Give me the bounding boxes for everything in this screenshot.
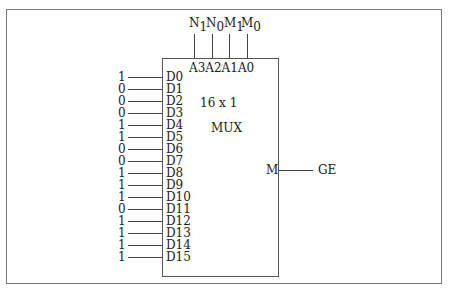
signal-sub: 0 bbox=[217, 20, 225, 34]
select-line-a3 bbox=[194, 34, 195, 58]
output-signal: GE bbox=[318, 164, 336, 176]
input-line-d14 bbox=[128, 245, 162, 246]
output-pin: M bbox=[266, 164, 278, 176]
signal-main: N bbox=[206, 16, 217, 30]
input-line-d3 bbox=[128, 113, 162, 114]
pin-d15: D15 bbox=[166, 251, 191, 263]
mux-size-label: 16 x 1 bbox=[200, 97, 237, 109]
input-line-d2 bbox=[128, 101, 162, 102]
input-line-d0 bbox=[128, 77, 162, 78]
signal-sub: 0 bbox=[253, 20, 261, 34]
select-line-a0 bbox=[247, 34, 248, 58]
select-line-a1 bbox=[229, 34, 230, 58]
input-line-d12 bbox=[128, 221, 162, 222]
input-line-d13 bbox=[128, 233, 162, 234]
input-line-d11 bbox=[128, 209, 162, 210]
select-signal-a0: M0 bbox=[241, 17, 261, 29]
input-line-d7 bbox=[128, 161, 162, 162]
select-signal-a2: N0 bbox=[206, 17, 224, 29]
select-signal-a3: N1 bbox=[189, 17, 207, 29]
signal-main: N bbox=[189, 16, 200, 30]
select-header: A3A2A1A0 bbox=[189, 62, 254, 74]
signal-main: M bbox=[241, 16, 253, 30]
mux-label: MUX bbox=[211, 122, 242, 134]
select-line-a2 bbox=[212, 34, 213, 58]
input-line-d1 bbox=[128, 89, 162, 90]
input-line-d9 bbox=[128, 185, 162, 186]
output-line bbox=[279, 170, 313, 171]
input-line-d5 bbox=[128, 137, 162, 138]
input-line-d15 bbox=[128, 257, 162, 258]
input-value-d15: 1 bbox=[118, 251, 126, 263]
input-line-d10 bbox=[128, 197, 162, 198]
input-line-d6 bbox=[128, 149, 162, 150]
signal-main: M bbox=[224, 16, 236, 30]
input-line-d8 bbox=[128, 173, 162, 174]
input-line-d4 bbox=[128, 125, 162, 126]
